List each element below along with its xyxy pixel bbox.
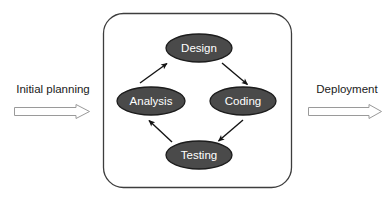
deployment-group: Deployment — [309, 83, 382, 118]
initial-planning-arrow-icon — [15, 105, 90, 119]
node-analysis[interactable]: Analysis — [117, 87, 185, 115]
initial-planning-label: Initial planning — [16, 83, 90, 95]
node-testing[interactable]: Testing — [166, 141, 232, 169]
node-analysis-label: Analysis — [130, 95, 173, 107]
node-design-label: Design — [181, 42, 217, 54]
lifecycle-diagram: Design Coding Testing Analysis Initial p… — [0, 0, 392, 199]
deployment-label: Deployment — [316, 83, 378, 95]
diagram-canvas: Design Coding Testing Analysis Initial p… — [0, 0, 392, 199]
node-coding-label: Coding — [225, 95, 261, 107]
node-coding[interactable]: Coding — [210, 87, 276, 115]
node-design[interactable]: Design — [166, 34, 232, 62]
deployment-arrow-icon — [309, 105, 382, 119]
node-testing-label: Testing — [181, 149, 217, 161]
initial-planning-group: Initial planning — [15, 83, 90, 118]
